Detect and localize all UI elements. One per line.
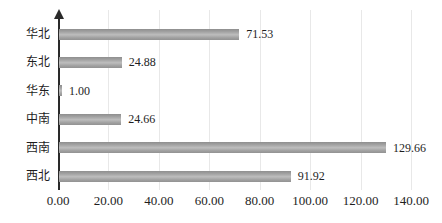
category-label: 西南	[6, 140, 50, 156]
bar	[59, 85, 62, 96]
value-label: 1.00	[69, 83, 90, 99]
gridline	[361, 10, 362, 190]
bar-chart: 华北71.53东北24.88华东1.00中南24.66西南129.66西北91.…	[0, 0, 442, 223]
y-axis-line	[58, 16, 60, 190]
bar	[59, 29, 239, 40]
category-label: 东北	[6, 54, 50, 70]
category-label: 中南	[6, 111, 50, 127]
category-label: 华北	[6, 26, 50, 42]
value-label: 91.92	[298, 168, 325, 184]
bar	[59, 114, 121, 125]
value-label: 24.66	[128, 111, 155, 127]
bar	[59, 57, 122, 68]
bar	[59, 171, 291, 182]
x-tick-label: 140.00	[381, 193, 441, 209]
gridline	[310, 10, 311, 190]
value-label: 129.66	[393, 140, 426, 156]
bar	[59, 142, 386, 153]
y-axis-arrow-icon	[54, 9, 64, 19]
value-label: 71.53	[246, 26, 273, 42]
gridline	[411, 10, 412, 190]
value-label: 24.88	[129, 54, 156, 70]
category-label: 西北	[6, 168, 50, 184]
category-label: 华东	[6, 83, 50, 99]
